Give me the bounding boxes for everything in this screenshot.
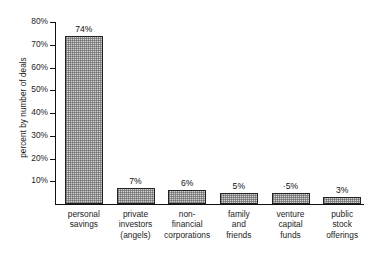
- y-axis-tick-mark: [50, 159, 55, 160]
- category-label-line: capital: [265, 219, 317, 229]
- y-axis-tick-label: 40%: [31, 107, 48, 117]
- bar-item[interactable]: 3%: [323, 183, 361, 204]
- bar-rect[interactable]: [168, 190, 206, 204]
- y-axis-tick-mark: [50, 113, 55, 114]
- bar-rect[interactable]: [272, 193, 310, 204]
- y-axis-tick-mark: [50, 68, 55, 69]
- category-label: publicstockofferings: [316, 209, 368, 240]
- y-axis-line: [55, 22, 56, 205]
- y-axis-tick-label: 50%: [31, 84, 48, 94]
- category-label-line: personal: [58, 209, 110, 219]
- category-label-line: non-: [161, 209, 213, 219]
- bar-item[interactable]: 6%: [168, 176, 206, 204]
- category-label-line: corporations: [161, 230, 213, 240]
- category-label-line: venture: [265, 209, 317, 219]
- category-label: personalsavings: [58, 209, 110, 230]
- category-label-line: private: [110, 209, 162, 219]
- y-axis-title: percent by number of deals: [19, 28, 28, 188]
- category-label-line: financial: [161, 219, 213, 229]
- bar-rect[interactable]: [220, 193, 258, 204]
- bar-value-label: ·5%: [283, 181, 298, 191]
- category-label-line: stock: [316, 219, 368, 229]
- bar-value-label: 74%: [75, 24, 92, 34]
- y-axis-tick-mark: [50, 136, 55, 137]
- y-axis-tick-mark: [50, 22, 55, 23]
- category-label-line: public: [316, 209, 368, 219]
- category-label-line: family: [213, 209, 265, 219]
- bar-value-label: 7%: [129, 176, 141, 186]
- category-label-line: offerings: [316, 230, 368, 240]
- category-label: privateinvestors(angels): [110, 209, 162, 240]
- x-axis-line: [55, 204, 364, 205]
- y-axis-tick-label: 10%: [31, 175, 48, 185]
- category-label-line: funds: [265, 230, 317, 240]
- bar-chart-figure: percent by number of deals 80%70%60%50%4…: [0, 0, 372, 255]
- category-label-line: investors: [110, 219, 162, 229]
- y-axis-tick-mark: [50, 45, 55, 46]
- category-label: familyandfriends: [213, 209, 265, 240]
- y-axis-tick-label: 20%: [31, 153, 48, 163]
- bar-rect[interactable]: [65, 36, 103, 204]
- bar-value-label: 5%: [233, 181, 245, 191]
- category-label-line: and: [213, 219, 265, 229]
- category-label-line: (angels): [110, 230, 162, 240]
- bar-item[interactable]: 7%: [117, 174, 155, 204]
- bar-rect[interactable]: [117, 188, 155, 204]
- y-axis-tick-label: 60%: [31, 62, 48, 72]
- category-label-line: friends: [213, 230, 265, 240]
- bar-value-label: 3%: [336, 185, 348, 195]
- category-label-line: savings: [58, 219, 110, 229]
- bar-item[interactable]: ·5%: [272, 179, 310, 204]
- y-axis-tick-mark: [50, 181, 55, 182]
- y-axis-tick-mark: [50, 90, 55, 91]
- bar-value-label: 6%: [181, 178, 193, 188]
- plot-area: 80%70%60%50%40%30%20%10% 74%7%6%5%·5%3%: [55, 18, 365, 205]
- category-label: venturecapitalfunds: [265, 209, 317, 240]
- bar-rect[interactable]: [323, 197, 361, 204]
- y-axis-tick-label: 80%: [31, 16, 48, 26]
- bar-item[interactable]: 74%: [65, 22, 103, 204]
- category-label: non-financialcorporations: [161, 209, 213, 240]
- bar-item[interactable]: 5%: [220, 179, 258, 204]
- y-axis-tick-label: 30%: [31, 130, 48, 140]
- y-axis-tick-label: 70%: [31, 39, 48, 49]
